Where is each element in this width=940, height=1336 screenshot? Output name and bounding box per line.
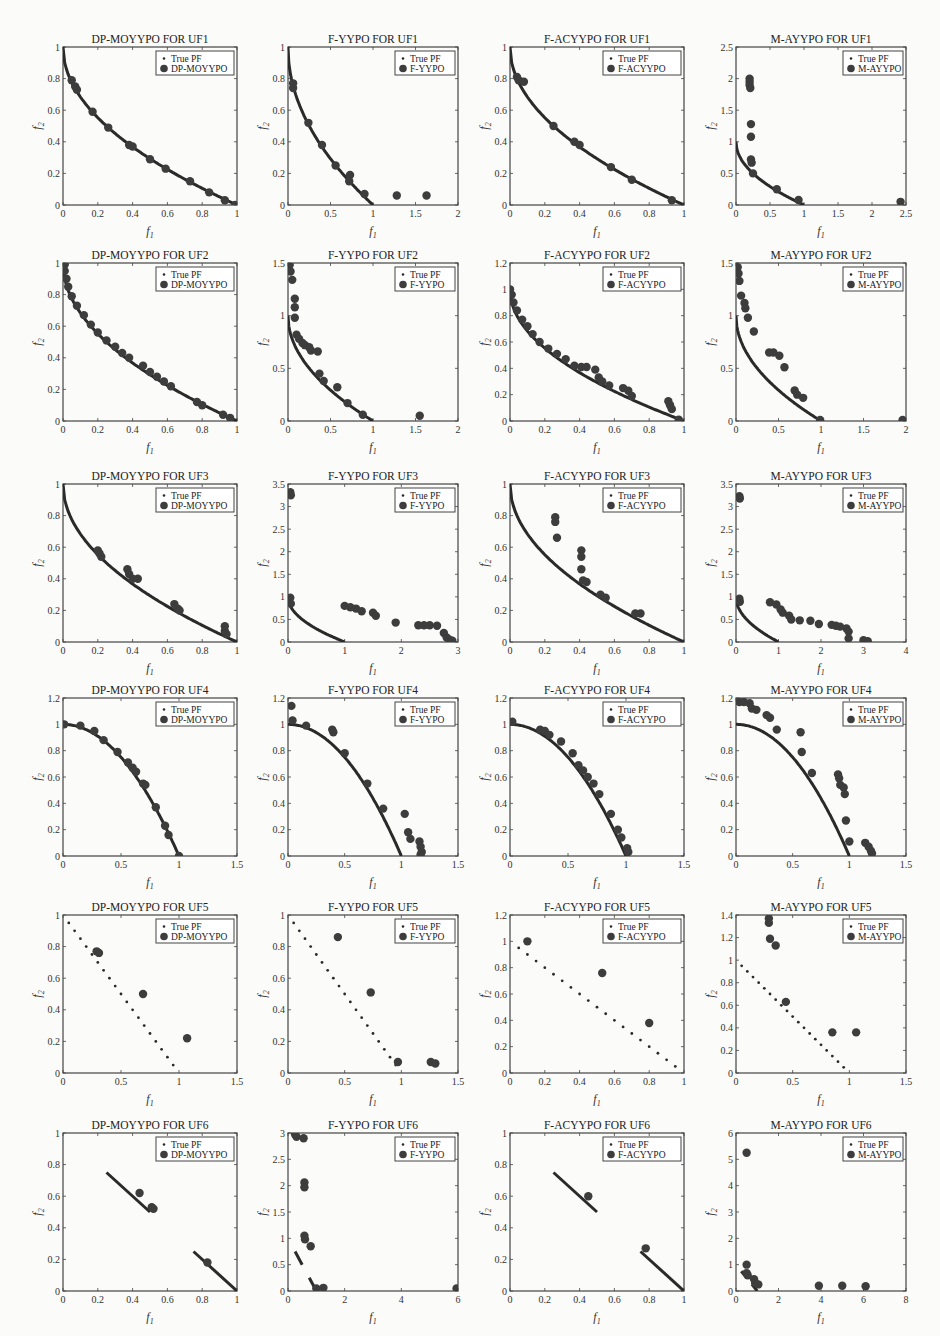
algorithm-point [320, 377, 328, 385]
algorithm-point [742, 1260, 750, 1268]
algorithm-point [842, 816, 850, 824]
true-pf-point [160, 1048, 163, 1051]
y-tick-label: 0.6 [721, 1000, 734, 1011]
y-tick-label: 0.2 [48, 824, 61, 835]
y-tick-label: 0.8 [495, 73, 508, 84]
y-tick-label: 1 [502, 719, 507, 730]
legend-dot-icon [850, 1143, 853, 1146]
y-tick-label: 0.4 [495, 1015, 508, 1026]
legend-dot-icon [850, 57, 853, 60]
true-pf-point [149, 1032, 152, 1035]
x-axis-label: f1 [146, 661, 153, 677]
algorithm-point [523, 937, 531, 945]
algorithm-point [329, 728, 337, 736]
true-pf-point [786, 1010, 789, 1013]
algorithm-point [431, 1059, 439, 1067]
true-pf-curve [736, 142, 804, 205]
legend-algorithm: F-ACYYPO [618, 64, 666, 74]
y-tick-label: 1 [55, 1128, 60, 1139]
x-axis-label: f1 [593, 1310, 600, 1326]
subplot-m-ayypo-for-uf6: M-AYYPO FOR UF6024680123456f1f2True PFM-… [706, 1113, 916, 1331]
y-tick-label: 0.4 [273, 1004, 286, 1015]
true-pf-point [842, 1066, 845, 1069]
algorithm-point [750, 327, 758, 335]
x-axis-label: f1 [817, 440, 824, 456]
algorithm-point [363, 779, 371, 787]
algorithm-point [773, 725, 781, 733]
y-tick-label: 0 [55, 851, 60, 862]
algorithm-point [152, 803, 160, 811]
x-tick-label: 0.2 [539, 208, 552, 219]
x-tick-label: 0.2 [539, 1076, 552, 1087]
algorithm-point [636, 609, 644, 617]
legend: True PFM-AYYPO [843, 267, 903, 291]
algorithm-point [394, 1058, 402, 1066]
subplot-title: M-AYYPO FOR UF3 [770, 470, 871, 482]
legend-algorithm: M-AYYPO [858, 932, 902, 942]
true-pf-point [517, 947, 520, 950]
legend-algorithm: DP-MOYYPO [171, 64, 228, 74]
subplot-title: F-YYPO FOR UF2 [328, 249, 418, 261]
subplot-f-yypo-for-uf5: F-YYPO FOR UF500.511.500.20.40.60.81f1f2… [258, 895, 468, 1113]
true-pf-point [67, 922, 70, 925]
algorithm-point [102, 336, 110, 344]
legend-dot-icon [402, 1143, 405, 1146]
y-tick-label: 1 [55, 719, 60, 730]
x-tick-label: 1 [371, 424, 376, 435]
y-tick-label: 1 [55, 910, 60, 921]
x-tick-label: 0.5 [786, 1076, 799, 1087]
x-tick-label: 2 [819, 645, 824, 656]
algorithm-point [379, 804, 387, 812]
legend-true-pf: True PF [171, 270, 202, 280]
true-pf-point [137, 1016, 140, 1019]
algorithm-point [782, 998, 790, 1006]
y-tick-label: 0.2 [48, 168, 61, 179]
legend-marker-icon [847, 1151, 855, 1159]
subplot-m-ayypo-for-uf3: M-AYYPO FOR UF30123400.511.522.533.5f1f2… [706, 464, 916, 682]
true-pf-point [166, 1056, 169, 1059]
algorithm-point [90, 727, 98, 735]
x-tick-label: 0 [61, 1294, 66, 1305]
x-tick-label: 1 [682, 1076, 687, 1087]
x-tick-label: 0.4 [573, 424, 586, 435]
y-tick-label: 1.5 [721, 105, 734, 116]
algorithm-point [448, 636, 456, 644]
y-tick-label: 1 [728, 955, 733, 966]
legend-marker-icon [160, 933, 168, 941]
y-axis-label: f2 [477, 773, 493, 780]
true-pf-point [102, 969, 105, 972]
y-tick-label: 0.2 [721, 1045, 734, 1056]
true-pf-point [837, 1060, 840, 1063]
algorithm-point [288, 276, 296, 284]
x-tick-label: 0 [61, 645, 66, 656]
true-pf-point [526, 953, 529, 956]
y-tick-label: 0.8 [48, 941, 61, 952]
x-tick-label: 1.5 [832, 208, 845, 219]
legend: True PFDP-MOYYPO [156, 919, 234, 943]
algorithm-point [861, 1282, 869, 1290]
y-tick-label: 0.4 [48, 573, 61, 584]
legend-algorithm: F-ACYYPO [618, 501, 666, 511]
y-tick-label: 1.5 [273, 1207, 286, 1218]
legend-true-pf: True PF [618, 54, 649, 64]
algorithm-point [153, 373, 161, 381]
true-pf-point [570, 986, 573, 989]
true-pf-point [304, 937, 307, 940]
y-tick-label: 0.6 [48, 321, 61, 332]
algorithm-point [88, 108, 96, 116]
legend-true-pf: True PF [171, 922, 202, 932]
y-tick-label: 0.4 [48, 1222, 61, 1233]
true-pf-point [315, 953, 318, 956]
x-tick-label: 0.5 [115, 859, 128, 870]
y-tick-label: 0.4 [48, 1004, 61, 1015]
y-tick-label: 1 [280, 1233, 285, 1244]
y-axis-label: f2 [30, 990, 46, 997]
true-pf-point [791, 1015, 794, 1018]
x-tick-label: 0.2 [539, 1294, 552, 1305]
subplot-f-acyypo-for-uf2: F-ACYYPO FOR UF200.20.40.60.8100.20.40.6… [480, 243, 694, 461]
x-axis-label: f1 [817, 661, 824, 677]
x-tick-label: 4 [819, 1294, 824, 1305]
subplot-title: M-AYYPO FOR UF5 [770, 901, 871, 913]
y-tick-label: 1 [502, 479, 507, 490]
algorithm-point [589, 779, 597, 787]
